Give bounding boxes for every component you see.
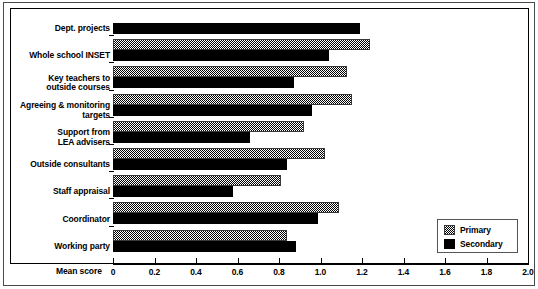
category-label-4: Support from LEA advisers — [57, 128, 110, 147]
chart-figure: Dept. projectsWhole school INSETKey teac… — [0, 0, 538, 289]
bar-primary-8 — [113, 230, 287, 241]
legend-label-primary: Primary — [460, 225, 491, 235]
bar-secondary-3 — [113, 105, 312, 116]
category-label-7: Coordinator — [62, 215, 110, 225]
x-tick-5 — [321, 258, 322, 264]
legend-swatch-primary — [444, 225, 455, 235]
category-axis-tick — [109, 171, 114, 172]
x-tick-7 — [404, 258, 405, 264]
bar-primary-6 — [113, 175, 281, 186]
bar-primary-3 — [113, 94, 352, 105]
x-tick-0 — [113, 258, 114, 264]
bar-secondary-2 — [113, 77, 294, 88]
category-axis-tick — [109, 144, 114, 145]
category-axis-tick — [109, 62, 114, 63]
x-tick-label-10: 2.0 — [522, 267, 534, 277]
bar-secondary-5 — [113, 159, 287, 170]
bar-primary-4 — [113, 121, 304, 132]
bar-secondary-4 — [113, 132, 250, 143]
bar-primary-1 — [113, 39, 370, 50]
x-tick-3 — [238, 258, 239, 264]
x-tick-label-1: 0.2 — [149, 267, 161, 277]
x-tick-label-2: 0.4 — [190, 267, 202, 277]
x-tick-4 — [279, 258, 280, 264]
bar-secondary-6 — [113, 186, 233, 197]
bar-secondary-7 — [113, 213, 318, 224]
x-tick-label-6: 1.2 — [356, 267, 368, 277]
bar-secondary-1 — [113, 50, 329, 61]
category-axis-labels: Dept. projectsWhole school INSETKey teac… — [12, 9, 110, 259]
chart-legend: PrimarySecondary — [437, 219, 518, 253]
legend-swatch-secondary — [444, 239, 455, 249]
category-label-8: Working party — [54, 242, 110, 252]
x-tick-1 — [155, 258, 156, 264]
category-axis-tick — [109, 35, 114, 36]
x-tick-2 — [196, 258, 197, 264]
x-tick-label-0: 0 — [111, 267, 116, 277]
bar-primary-5 — [113, 148, 325, 159]
bar-secondary-0 — [113, 23, 360, 34]
bar-secondary-8 — [113, 241, 296, 252]
x-tick-10 — [528, 258, 529, 264]
category-label-2: Key teachers to outside courses — [46, 74, 110, 93]
x-tick-label-7: 1.4 — [398, 267, 410, 277]
x-tick-9 — [487, 258, 488, 264]
x-tick-8 — [445, 258, 446, 264]
bar-primary-7 — [113, 202, 339, 213]
x-tick-label-3: 0.6 — [232, 267, 244, 277]
category-label-5: Outside consultants — [30, 160, 110, 170]
category-label-0: Dept. projects — [55, 24, 110, 34]
x-tick-label-5: 1.0 — [315, 267, 327, 277]
x-tick-label-8: 1.6 — [439, 267, 451, 277]
x-axis-title: Mean score — [56, 266, 102, 276]
category-axis-tick — [109, 8, 114, 9]
x-tick-label-9: 1.8 — [481, 267, 493, 277]
category-label-6: Staff appraisal — [53, 187, 110, 197]
category-axis-tick — [109, 226, 114, 227]
category-axis-tick — [109, 90, 114, 91]
x-tick-6 — [362, 258, 363, 264]
category-label-3: Agreeing & monitoring targets — [20, 101, 110, 120]
x-tick-label-4: 0.8 — [273, 267, 285, 277]
legend-label-secondary: Secondary — [460, 239, 503, 249]
category-label-1: Whole school INSET — [29, 51, 110, 61]
bar-primary-2 — [113, 66, 347, 77]
x-axis-line — [113, 264, 529, 265]
category-axis-tick — [109, 198, 114, 199]
category-axis-tick — [109, 117, 114, 118]
